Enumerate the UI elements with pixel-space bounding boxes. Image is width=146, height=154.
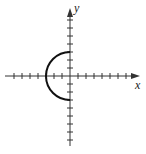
coordinate-plane	[0, 0, 146, 154]
x-axis-label: x	[135, 79, 140, 91]
y-axis-label: y	[74, 2, 79, 14]
y-arrow-icon	[67, 8, 73, 17]
x-axis	[5, 73, 140, 79]
y-axis	[67, 8, 73, 146]
